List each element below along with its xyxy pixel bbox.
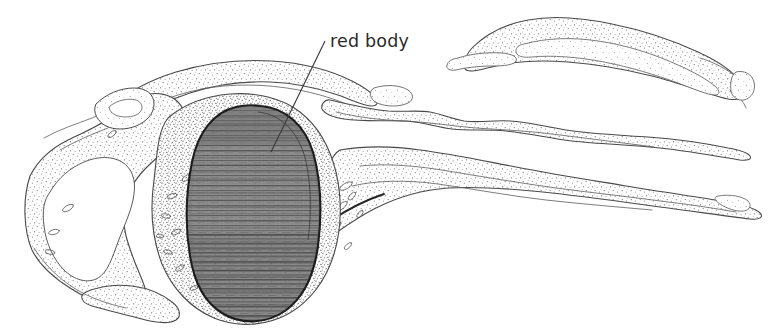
mid-band-lobe	[370, 86, 412, 106]
anatomical-drawing: red body	[0, 0, 772, 332]
figure-root: red body	[0, 0, 772, 332]
red-body-label: red body	[330, 31, 409, 51]
upper-right-tip	[731, 71, 755, 100]
